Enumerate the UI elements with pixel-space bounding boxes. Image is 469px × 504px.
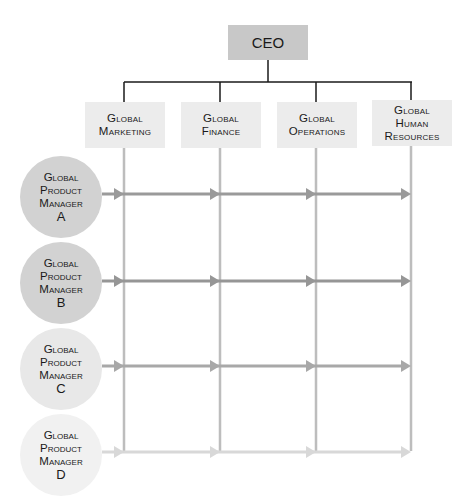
product-manager-arrows [102, 188, 411, 458]
department-box-marketing: Global Marketing [85, 102, 165, 148]
department-label: Global [289, 112, 346, 125]
arrowhead-icon [401, 446, 411, 458]
product-manager-circle-c: Global Product Manager C [20, 328, 102, 410]
arrowhead-icon [401, 360, 411, 372]
pm-label: Product [40, 356, 82, 369]
department-label: Global [99, 112, 151, 125]
department-label: Global [202, 112, 241, 125]
arrowhead-icon [210, 275, 220, 287]
pm-label: Product [40, 442, 82, 455]
department-label: Finance [202, 125, 241, 138]
pm-label: Global [44, 257, 79, 270]
department-label: Operations [289, 125, 346, 138]
arrowhead-icon [306, 360, 316, 372]
department-label: Marketing [99, 125, 151, 138]
pm-letter: D [56, 468, 65, 481]
product-manager-circle-b: Global Product Manager B [20, 242, 102, 324]
department-vertical-lines [124, 146, 411, 451]
pm-label: Global [44, 429, 79, 442]
department-box-operations: Global Operations [277, 102, 357, 148]
arrowhead-icon [210, 446, 220, 458]
pm-letter: B [57, 296, 66, 309]
arrowhead-icon [114, 360, 124, 372]
pm-label: Global [44, 171, 79, 184]
arrowhead-icon [114, 188, 124, 200]
department-label: Human [384, 117, 439, 130]
arrow-row-b [102, 275, 411, 287]
pm-label: Global [44, 343, 79, 356]
arrow-row-d [102, 446, 411, 458]
arrowhead-icon [306, 446, 316, 458]
department-label: Resources [384, 130, 439, 143]
pm-letter: A [57, 210, 66, 223]
arrowhead-icon [114, 275, 124, 287]
department-label: Global [384, 104, 439, 117]
pm-label: Product [40, 270, 82, 283]
arrowhead-icon [210, 360, 220, 372]
department-box-finance: Global Finance [181, 102, 261, 148]
arrowhead-icon [210, 188, 220, 200]
arrowhead-icon [306, 275, 316, 287]
arrow-row-a [102, 188, 411, 200]
department-box-hr: Global Human Resources [372, 100, 452, 146]
pm-label: Product [40, 184, 82, 197]
arrowhead-icon [401, 188, 411, 200]
ceo-box: CEO [228, 25, 308, 60]
ceo-label: CEO [252, 34, 285, 51]
arrow-row-c [102, 360, 411, 372]
product-manager-circle-d: Global Product Manager D [20, 414, 102, 496]
product-manager-circle-a: Global Product Manager A [20, 156, 102, 238]
arrowhead-icon [401, 275, 411, 287]
hierarchy-connectors [124, 60, 412, 102]
arrowhead-icon [306, 188, 316, 200]
pm-letter: C [56, 382, 65, 395]
arrowhead-icon [114, 446, 124, 458]
